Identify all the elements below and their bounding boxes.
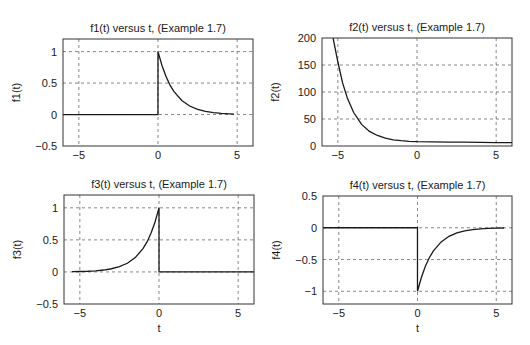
- data-line: [333, 38, 512, 143]
- x-tick-label: 5: [493, 149, 499, 161]
- y-tick-label: 50: [304, 113, 316, 125]
- chart-title: f2(t) versus t, (Example 1.7): [349, 21, 485, 33]
- subplot-2: −505050100150200f2(t) versus t, (Example…: [269, 21, 512, 161]
- y-tick-label: −1: [304, 285, 317, 297]
- y-tick-label: −0.5: [35, 140, 57, 152]
- x-tick-label: 5: [493, 307, 499, 319]
- y-tick-label: 1: [51, 46, 57, 58]
- y-tick-label: 0.5: [42, 77, 57, 89]
- x-tick-label: 5: [235, 307, 241, 319]
- y-tick-label: 150: [298, 59, 316, 71]
- x-tick-label: 0: [156, 307, 162, 319]
- x-tick-label: −5: [73, 149, 86, 161]
- y-tick-label: 0: [311, 222, 317, 234]
- x-tick-label: −5: [74, 307, 87, 319]
- x-tick-label: 5: [234, 149, 240, 161]
- x-axis-label: t: [157, 322, 160, 334]
- y-tick-label: 100: [298, 86, 316, 98]
- figure: −505−0.500.51f1(t) versus t, (Example 1.…: [0, 0, 530, 345]
- subplot-3: −505−0.500.51f3(t) versus t, (Example 1.…: [11, 178, 254, 334]
- y-tick-label: 200: [298, 32, 316, 44]
- chart-title: f1(t) versus t, (Example 1.7): [90, 22, 226, 34]
- y-tick-label: 0: [51, 109, 57, 121]
- y-axis-label: f1(t): [10, 83, 22, 103]
- y-axis-label: f3(t): [11, 240, 23, 260]
- y-axis-label: f4(t): [270, 240, 282, 260]
- x-tick-label: −5: [332, 307, 345, 319]
- x-tick-label: −5: [332, 149, 345, 161]
- chart-title: f4(t) versus t, (Example 1.7): [350, 179, 486, 191]
- y-tick-label: −0.5: [295, 254, 317, 266]
- y-tick-label: 0: [52, 266, 58, 278]
- subplot-4: −505−1−0.500.5f4(t) versus t, (Example 1…: [270, 179, 512, 334]
- y-tick-label: 1: [52, 202, 58, 214]
- y-axis-label: f2(t): [269, 82, 281, 102]
- chart-title: f3(t) versus t, (Example 1.7): [91, 178, 227, 190]
- x-axis-label: t: [416, 322, 419, 334]
- y-tick-label: 0: [310, 140, 316, 152]
- x-tick-label: 0: [155, 149, 161, 161]
- subplot-1: −505−0.500.51f1(t) versus t, (Example 1.…: [10, 22, 253, 161]
- grid-lines: [322, 38, 512, 146]
- y-tick-label: 0.5: [302, 190, 317, 202]
- y-tick-label: −0.5: [36, 298, 58, 310]
- x-tick-label: 0: [414, 149, 420, 161]
- y-tick-label: 0.5: [43, 234, 58, 246]
- x-tick-label: 0: [414, 307, 420, 319]
